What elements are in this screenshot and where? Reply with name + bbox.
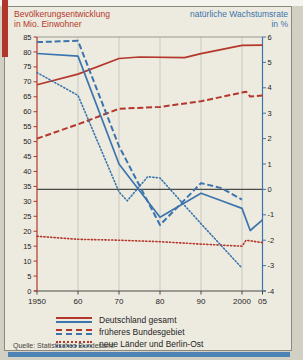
right-axis-tick-label: -2 <box>268 236 275 245</box>
right-axis-tick-label: -4 <box>268 287 275 296</box>
left-axis-tick-label: 60 <box>23 107 31 116</box>
right-axis-tick-label: 5 <box>268 58 272 67</box>
left-axis-tick-label: 65 <box>23 92 31 101</box>
right-axis-tick-label: 3 <box>268 109 272 118</box>
population-growth-chart: 1950607080902000050510152025303540455055… <box>0 0 303 360</box>
legend-item-deutschland-gesamt: Deutschland gesamt <box>56 314 203 326</box>
left-axis-tick-label: 55 <box>23 122 31 131</box>
right-axis-tick-label: 4 <box>268 83 272 92</box>
left-axis-tick-label: 80 <box>23 48 31 57</box>
left-axis-tick-label: 70 <box>23 77 31 86</box>
left-axis-tick-label: 0 <box>27 287 31 296</box>
legend-label: früheres Bundesgebiet <box>99 327 185 337</box>
series-wachstumsrate-deutschland-gesamt <box>37 54 263 231</box>
legend-item-frueheres-bundesgebiet: früheres Bundesgebiet <box>56 326 203 338</box>
left-axis-tick-label: 5 <box>27 272 31 281</box>
right-axis-tick-label: -1 <box>268 210 275 219</box>
x-tick-label: 90 <box>197 297 206 306</box>
right-axis-tick-label: 0 <box>268 185 272 194</box>
right-axis-tick-label: 2 <box>268 134 272 143</box>
left-axis-tick-label: 85 <box>23 33 31 42</box>
legend-label: Deutschland gesamt <box>99 315 177 325</box>
left-axis-tick-label: 35 <box>23 182 31 191</box>
left-axis-tick-label: 50 <box>23 137 31 146</box>
x-tick-label: 80 <box>156 297 165 306</box>
source-note: Quelle: Statistisches Bundesamt <box>13 342 114 349</box>
x-tick-label: 1950 <box>28 297 46 306</box>
right-axis-tick-label: 6 <box>268 33 272 42</box>
series-bevoelkerung-neue-laender-berlin-ost <box>37 236 263 246</box>
legend-chip-dashed <box>56 329 92 335</box>
left-axis-tick-label: 40 <box>23 167 31 176</box>
right-axis-tick-label: 1 <box>268 160 272 169</box>
legend-chip-solid <box>56 317 92 323</box>
x-tick-label: 60 <box>74 297 83 306</box>
page: { "panel": { "title_left": "Bevölkerungs… <box>0 0 303 360</box>
left-axis-tick-label: 30 <box>23 197 31 206</box>
x-tick-label: 70 <box>115 297 124 306</box>
left-axis-tick-label: 45 <box>23 152 31 161</box>
left-axis-tick-label: 20 <box>23 227 31 236</box>
x-tick-label: 2000 <box>233 297 251 306</box>
series-bevoelkerung-frueheres-bundesgebiet <box>37 92 263 139</box>
series-bevoelkerung-deutschland-gesamt <box>37 45 263 85</box>
left-axis-tick-label: 75 <box>23 62 31 71</box>
legend-label: neue Länder und Berlin-Ost <box>99 339 203 349</box>
left-axis-tick-label: 10 <box>23 257 31 266</box>
left-axis-tick-label: 15 <box>23 242 31 251</box>
x-tick-label: 05 <box>258 297 267 306</box>
left-axis-tick-label: 25 <box>23 212 31 221</box>
right-axis-tick-label: -3 <box>268 261 275 270</box>
